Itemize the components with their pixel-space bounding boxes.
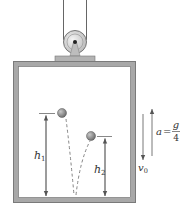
svg-text:4: 4: [173, 133, 179, 143]
pulley-icon: [64, 31, 87, 57]
elevator-cab: [14, 62, 136, 203]
acceleration-label: a = g 4: [156, 119, 180, 143]
elevator-diagram: h1 h2 v0 a = g 4: [0, 0, 192, 210]
svg-text:=: =: [163, 126, 171, 137]
ball-initial: [58, 109, 67, 118]
ball-rebound: [87, 132, 96, 141]
label-v0: v0: [138, 162, 148, 175]
svg-text:g: g: [173, 119, 179, 130]
svg-text:a: a: [156, 126, 162, 137]
